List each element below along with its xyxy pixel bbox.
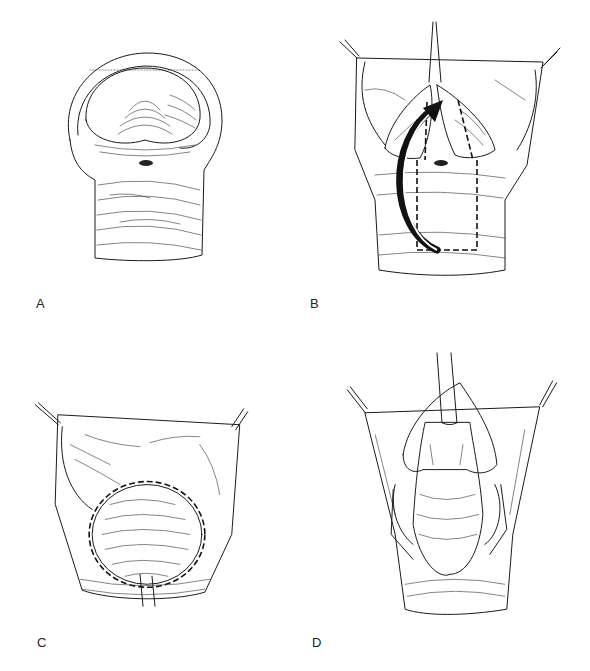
panel-b: B <box>295 0 590 335</box>
trachea-end-view-illustration <box>0 0 295 335</box>
flap-sutured-illustration <box>0 335 295 670</box>
panel-label-d: D <box>312 635 321 650</box>
panel-label-b: B <box>310 296 319 311</box>
panel-c: C <box>0 335 295 670</box>
panel-label-c: C <box>37 635 46 650</box>
panel-a: A <box>0 0 295 335</box>
panel-label-a: A <box>36 296 45 311</box>
flap-design-illustration <box>295 0 590 335</box>
reconstruction-with-tube-illustration <box>295 335 590 670</box>
panel-d: D <box>295 335 590 670</box>
